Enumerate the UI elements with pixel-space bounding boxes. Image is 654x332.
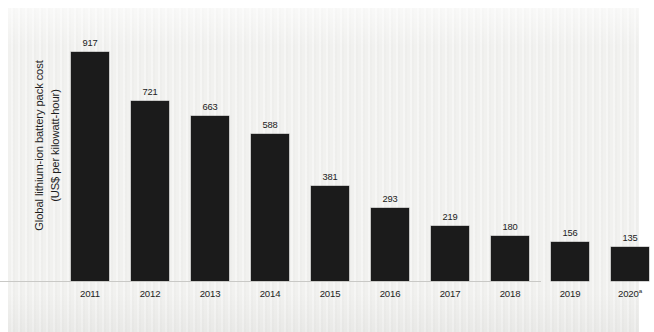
bar-value-label-2016: 293: [383, 194, 398, 204]
bar-group: 293: [371, 18, 409, 281]
bar-value-label-2017: 219: [443, 212, 458, 222]
bar-value-label-2018: 180: [503, 222, 518, 232]
x-tick-label-2018: 2018: [480, 288, 540, 299]
x-tick-label-2011: 2011: [60, 288, 120, 299]
bar-group: 180: [491, 18, 529, 281]
x-tick-label-2012: 2012: [120, 288, 180, 299]
bar-group: 663: [191, 18, 229, 281]
plot-area: 917721663588381293219180156135: [71, 18, 620, 281]
bar-value-label-2011: 917: [83, 38, 98, 48]
x-tick-label-2015: 2015: [300, 288, 360, 299]
y-axis-title-line-1: Global lithium-ion battery pack cost: [32, 60, 48, 231]
x-tick-label-2016: 2016: [360, 288, 420, 299]
bar-2015: [311, 186, 349, 281]
bar-2012: [131, 101, 169, 281]
bar-value-label-2015: 381: [323, 172, 338, 182]
x-axis-tick-labels: 2011201220132014201520162017201820192020…: [71, 288, 620, 310]
x-tick-label-2014: 2014: [240, 288, 300, 299]
bar-value-label-2020: 135: [623, 233, 638, 243]
bar-value-label-2013: 663: [203, 102, 218, 112]
bar-2011: [71, 52, 109, 281]
bar-group: 156: [551, 18, 589, 281]
bar-group: 219: [431, 18, 469, 281]
x-tick-label-2017: 2017: [420, 288, 480, 299]
bar-2013: [191, 116, 229, 281]
bar-value-label-2014: 588: [263, 120, 278, 130]
bar-group: 917: [71, 18, 109, 281]
bar-2017: [431, 226, 469, 281]
x-tick-label-2013: 2013: [180, 288, 240, 299]
bar-value-label-2019: 156: [563, 228, 578, 238]
bar-2019: [551, 242, 589, 281]
bar-group: 381: [311, 18, 349, 281]
bar-group: 721: [131, 18, 169, 281]
bar-2018: [491, 236, 529, 281]
x-axis-baseline: [0, 281, 541, 282]
bar-group: 588: [251, 18, 289, 281]
bar-group: 135: [611, 18, 649, 281]
y-axis-title-line-2: (US$ per kilowatt-hour): [47, 60, 63, 231]
bar-value-label-2012: 721: [143, 87, 158, 97]
y-axis-title: Global lithium-ion battery pack cost (US…: [24, 0, 70, 290]
footnote-marker-icon: a: [639, 287, 642, 294]
bar-2020: [611, 247, 649, 281]
x-tick-label-2019: 2019: [540, 288, 600, 299]
x-tick-label-2020: 2020a: [600, 288, 654, 299]
bar-2016: [371, 208, 409, 281]
bar-2014: [251, 134, 289, 281]
